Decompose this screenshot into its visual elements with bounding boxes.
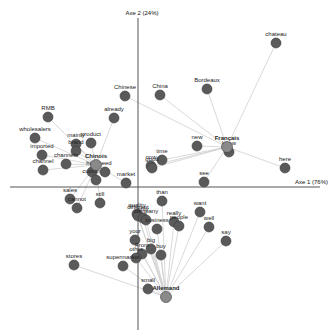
data-point: well	[203, 215, 214, 232]
hub-marker	[161, 292, 172, 303]
hub-label: Français	[215, 135, 240, 141]
point-marker	[30, 133, 40, 143]
point-marker	[221, 236, 231, 246]
data-point: buy	[156, 243, 166, 260]
point-label: time	[156, 148, 168, 154]
point-marker	[204, 222, 214, 232]
point-label: China	[152, 83, 168, 89]
point-marker	[100, 167, 110, 177]
point-marker	[280, 163, 290, 173]
point-label: imported	[30, 143, 53, 149]
data-point: RMB	[41, 105, 54, 122]
data-point: wholesalers	[18, 126, 51, 143]
point-label: Bordeaux	[194, 77, 220, 83]
data-point: Chinese	[114, 84, 137, 101]
point-label: channel	[32, 158, 53, 164]
point-marker	[121, 178, 131, 188]
point-label: Chinese	[114, 84, 137, 90]
point-marker	[86, 138, 96, 148]
correspondence-analysis-chart: Axe 1 (76%) Axe 2 (24%) chateauBordeauxC…	[0, 0, 334, 333]
data-point: here	[279, 156, 292, 173]
point-marker	[152, 224, 162, 234]
link-line	[227, 43, 276, 147]
point-marker	[43, 112, 53, 122]
point-label: buy	[156, 243, 166, 249]
data-point: see	[199, 170, 209, 187]
point-label: than	[156, 189, 168, 195]
point-label: your	[129, 228, 141, 234]
point-label: product	[81, 131, 101, 137]
point-label: good	[145, 156, 158, 162]
point-label: here	[279, 156, 292, 162]
point-label: market	[117, 171, 136, 177]
point-label: well	[203, 215, 214, 221]
point-marker	[118, 261, 128, 271]
point-label: company	[134, 208, 158, 214]
hub-marker	[91, 160, 102, 171]
data-point: say	[221, 229, 231, 246]
point-label: supermarket	[106, 254, 140, 260]
point-marker	[156, 250, 166, 260]
data-point: cannot	[68, 196, 86, 213]
data-point: still	[95, 191, 105, 208]
point-label: wholesalers	[18, 126, 51, 132]
point-label: still	[96, 191, 105, 197]
point-label: business	[145, 217, 169, 223]
point-label: new	[191, 134, 203, 140]
data-point: Bordeaux	[194, 77, 220, 94]
point-marker	[271, 38, 281, 48]
data-point: than	[156, 189, 168, 206]
point-marker	[61, 159, 71, 169]
data-point: new	[191, 134, 203, 151]
point-marker	[157, 196, 167, 206]
point-marker	[199, 177, 209, 187]
point-marker	[72, 203, 82, 213]
axis-2-label: Axe 2 (24%)	[125, 10, 158, 16]
point-label: want	[193, 200, 207, 206]
point-marker	[192, 141, 202, 151]
point-marker	[91, 175, 101, 185]
point-label: other	[129, 246, 143, 252]
point-marker	[120, 91, 130, 101]
data-point: chateau	[265, 31, 286, 48]
point-marker	[95, 198, 105, 208]
point-marker	[69, 260, 79, 270]
data-point: channel	[32, 158, 53, 175]
point-marker	[174, 221, 184, 231]
hub-label: Allemand	[152, 285, 179, 291]
point-marker	[202, 84, 212, 94]
point-label: already	[104, 106, 124, 112]
hub-point: Français	[215, 135, 240, 153]
point-marker	[155, 90, 165, 100]
point-marker	[147, 163, 157, 173]
point-label: say	[221, 229, 230, 235]
hub-marker	[222, 142, 233, 153]
point-marker	[109, 113, 119, 123]
hub-label: Chinois	[85, 153, 108, 159]
point-label: people	[170, 214, 189, 220]
point-label: brand	[68, 139, 83, 145]
data-point: China	[152, 83, 168, 100]
scatter-plot: Axe 1 (76%) Axe 2 (24%) chateauBordeauxC…	[0, 0, 334, 333]
point-label: chateau	[265, 31, 286, 37]
point-label: stores	[66, 253, 82, 259]
point-label: see	[199, 170, 209, 176]
point-label: channels	[54, 152, 78, 158]
point-label: sales	[63, 187, 77, 193]
data-point: product	[81, 131, 101, 148]
data-point: stores	[66, 253, 82, 270]
data-point: already	[104, 106, 124, 123]
point-label: small	[141, 277, 155, 283]
link-line	[227, 147, 285, 168]
point-marker	[38, 165, 48, 175]
point-label: cannot	[68, 196, 86, 202]
axis-1-label: Axe 1 (76%)	[295, 179, 328, 185]
data-point: channels	[54, 152, 78, 169]
point-label: RMB	[41, 105, 54, 111]
